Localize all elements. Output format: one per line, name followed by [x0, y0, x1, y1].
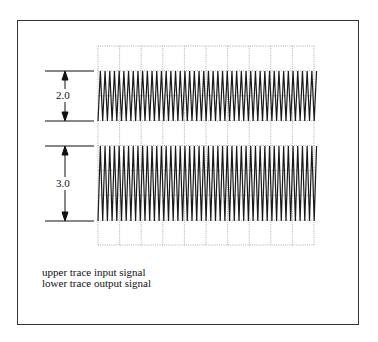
lower-trace — [98, 146, 317, 221]
caption-line-upper: upper trace input signal — [42, 267, 151, 278]
figure-caption: upper trace input signal lower trace out… — [42, 267, 151, 288]
upper-amplitude-label: 2.0 — [56, 89, 70, 102]
oscilloscope-display — [0, 0, 378, 342]
arrow-up-icon — [62, 71, 68, 80]
caption-line-lower: lower trace output signal — [42, 278, 151, 289]
arrow-down-icon — [62, 112, 68, 121]
arrow-down-icon — [62, 212, 68, 221]
arrow-up-icon — [62, 146, 68, 155]
lower-amplitude-label: 3.0 — [56, 177, 70, 190]
